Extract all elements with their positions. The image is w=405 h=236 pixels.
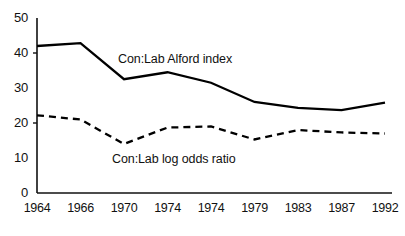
x-axis-tick-label: 1983 [278, 202, 318, 215]
x-axis-tick-label: 1974 [148, 202, 188, 215]
y-axis-tick-label: 30 [2, 81, 28, 94]
y-axis-tick-label: 20 [2, 116, 28, 129]
y-axis-tick-label: 0 [2, 186, 28, 199]
x-axis-tick-label: 1979 [235, 202, 275, 215]
axes-group [33, 18, 392, 193]
y-axis-tick-label: 10 [2, 151, 28, 164]
x-axis-tick-label: 1974 [191, 202, 231, 215]
x-axis-tick-label: 1966 [61, 202, 101, 215]
series-label-alford-index: Con:Lab Alford index [118, 52, 232, 66]
x-axis-tick-label: 1964 [17, 202, 57, 215]
series-line-log-odds-ratio [37, 115, 385, 144]
x-axis-tick-label: 1992 [365, 202, 405, 215]
series-label-log-odds-ratio: Con:Lab log odds ratio [112, 152, 236, 166]
y-axis-tick-label: 50 [2, 11, 28, 24]
y-axis-tick-label: 40 [2, 46, 28, 59]
x-axis-tick-label: 1987 [322, 202, 362, 215]
chart-figure: 01020304050 1964196619701974197419791983… [0, 0, 405, 236]
x-axis-tick-label: 1970 [104, 202, 144, 215]
